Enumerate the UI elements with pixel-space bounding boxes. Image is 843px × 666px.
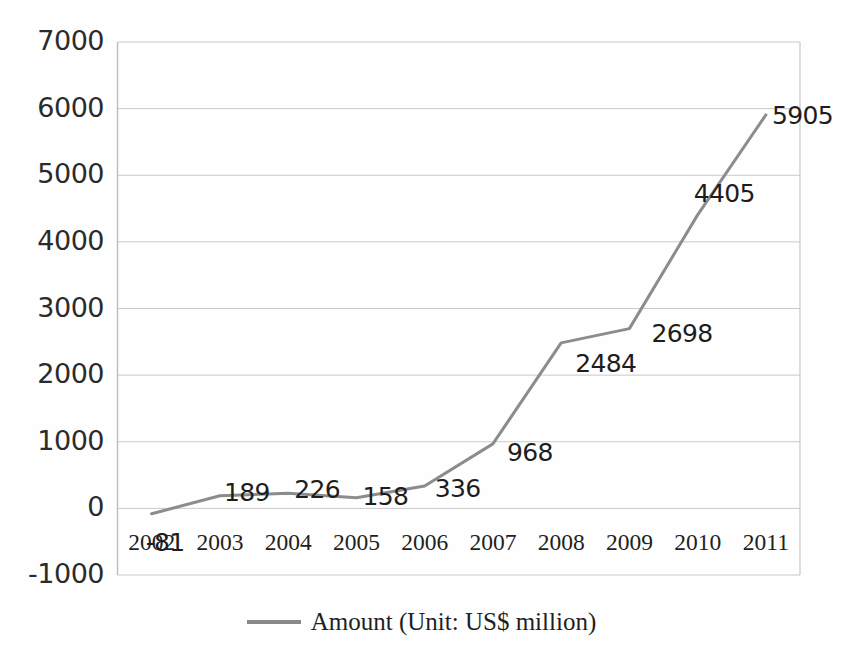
legend-line-marker-icon	[247, 620, 301, 624]
data-label-2007: 968	[507, 438, 553, 467]
line-chart: 70006000500040003000200010000-1000 20022…	[0, 0, 843, 666]
y-axis-tick-0: 0	[0, 491, 104, 522]
data-label-2011: 5905	[772, 101, 833, 130]
y-axis-tick-5000: 5000	[0, 158, 104, 189]
data-label-2009: 2698	[651, 319, 712, 348]
x-axis-tick-2007: 2007	[459, 529, 527, 556]
x-axis-tick-2005: 2005	[322, 529, 390, 556]
chart-canvas	[0, 0, 843, 666]
data-label-2002: -81	[146, 528, 185, 557]
legend-entry-label: Amount (Unit: US$ million)	[311, 608, 596, 636]
x-axis-tick-2004: 2004	[254, 529, 322, 556]
y-axis-tick-1000: 1000	[0, 425, 104, 456]
y-axis-tick-4000: 4000	[0, 225, 104, 256]
y-axis-tick-neg1000: -1000	[0, 558, 104, 589]
data-label-2008: 2484	[575, 349, 636, 378]
x-axis-tick-2011: 2011	[732, 529, 800, 556]
y-axis-tick-7000: 7000	[0, 25, 104, 56]
x-axis-tick-2008: 2008	[527, 529, 595, 556]
data-label-2010: 4405	[694, 179, 755, 208]
x-axis-tick-2006: 2006	[391, 529, 459, 556]
data-label-2003: 189	[224, 478, 270, 507]
chart-legend: Amount (Unit: US$ million)	[0, 608, 843, 636]
y-axis-tick-3000: 3000	[0, 292, 104, 323]
data-label-2005: 158	[362, 482, 408, 511]
x-axis-tick-2010: 2010	[664, 529, 732, 556]
x-axis-tick-2009: 2009	[595, 529, 663, 556]
y-axis-tick-6000: 6000	[0, 92, 104, 123]
data-label-2004: 226	[294, 475, 340, 504]
data-label-2006: 336	[435, 474, 481, 503]
y-axis-tick-2000: 2000	[0, 358, 104, 389]
x-axis-tick-2003: 2003	[186, 529, 254, 556]
